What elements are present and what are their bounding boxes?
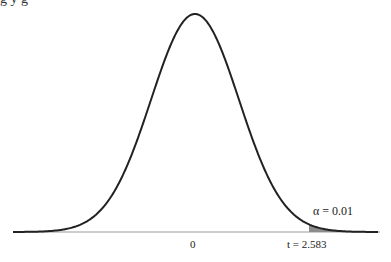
alpha-annotation: α = 0.01 xyxy=(313,204,353,219)
density-curve xyxy=(13,14,378,232)
t-distribution-chart xyxy=(0,0,391,262)
tick-label-critical-t: t = 2.583 xyxy=(287,238,327,250)
tick-label-zero: 0 xyxy=(190,238,196,250)
